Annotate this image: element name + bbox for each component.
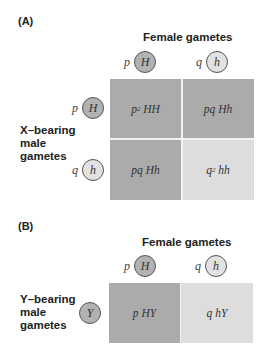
- panel-a-punnett-grid: p2 HH pq Hh pq Hh q2 hh: [110, 79, 253, 200]
- frequency-label: p: [124, 55, 130, 70]
- panel-a-col-2-header: q h: [196, 51, 228, 73]
- punnett-cell-Hh-bottom: pq Hh: [110, 140, 181, 200]
- punnett-cell-hY: q hY: [181, 283, 253, 343]
- frequency-label: q: [196, 55, 202, 70]
- allele-circle-icon: H: [134, 51, 156, 73]
- allele-circle-icon: Y: [79, 302, 101, 324]
- panel-a-row-2-header: q h: [72, 159, 104, 181]
- frequency-label: q: [72, 163, 78, 178]
- panel-b-col-1-header: p H: [124, 255, 156, 277]
- panel-a-row-label: X–bearing male gametes: [20, 124, 76, 163]
- allele-circle-icon: H: [82, 97, 104, 119]
- panel-b-punnett-grid: p HY q hY: [109, 283, 253, 343]
- allele-circle-icon: h: [206, 51, 228, 73]
- panel-a-female-gametes-header: Female gametes: [143, 31, 233, 43]
- panel-b-label: (B): [18, 220, 33, 232]
- panel-b-row-1-header: Y: [79, 302, 101, 324]
- allele-circle-icon: H: [134, 255, 156, 277]
- punnett-cell-HH: p2 HH: [110, 79, 181, 138]
- frequency-label: p: [72, 101, 78, 116]
- panel-a-label: (A): [18, 15, 33, 27]
- panel-b-col-2-header: q h: [195, 255, 227, 277]
- punnett-cell-HY: p HY: [109, 283, 180, 343]
- allele-circle-icon: h: [82, 159, 104, 181]
- punnett-cell-hh: q2 hh: [183, 140, 254, 200]
- panel-a-col-1-header: p H: [124, 51, 156, 73]
- frequency-label: q: [195, 259, 201, 274]
- panel-a-row-1-header: p H: [72, 97, 104, 119]
- allele-circle-icon: h: [205, 255, 227, 277]
- panel-b-female-gametes-header: Female gametes: [142, 236, 232, 248]
- panel-b-row-label: Y–bearing male gametes: [20, 293, 76, 332]
- frequency-label: p: [124, 259, 130, 274]
- punnett-cell-Hh-top: pq Hh: [183, 79, 254, 138]
